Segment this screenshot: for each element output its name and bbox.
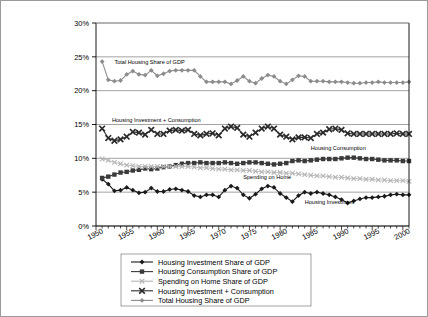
data-point [290,159,294,163]
data-point [364,157,368,161]
data-point [272,162,276,166]
chart-annotation: Housing Investment + Consumption [112,117,201,123]
chart-annotation: Housing Consumption [311,145,366,151]
data-point [229,161,233,165]
legend-label: Spending on Home Share of GDP [158,277,268,286]
data-point [204,161,208,165]
legend-label: Total Housing Share of GDP [158,296,250,305]
y-tick-label: 10% [74,154,89,163]
data-point [296,158,300,162]
data-point [260,161,264,165]
x-tick-label: 1960 [147,226,166,241]
data-point [198,160,202,164]
data-point [131,168,135,172]
chart-window: 0%5%10%15%20%25%30%195019551960196519701… [0,0,428,317]
data-point [401,159,405,163]
data-point [112,172,116,176]
data-point [241,161,245,165]
data-point [345,155,349,159]
data-point [223,160,227,164]
chart-annotation: Housing Investment [305,199,355,205]
data-point [140,269,144,273]
data-point [210,161,214,165]
data-point [266,162,270,166]
data-point [376,157,380,161]
data-point [309,158,313,162]
x-tick-label: 2000 [393,226,412,241]
x-tick-label: 1980 [270,226,289,241]
data-point [118,170,122,174]
data-point [284,161,288,165]
data-point [124,170,128,174]
x-tick-label: 1970 [209,226,228,241]
x-tick-label: 1975 [239,226,258,241]
data-point [382,158,386,162]
data-point [370,157,374,161]
data-point [235,162,239,166]
y-tick-label: 30% [74,19,89,28]
data-point [278,162,282,166]
data-point [333,157,337,161]
line-chart: 0%5%10%15%20%25%30%195019551960196519701… [1,1,428,317]
y-tick-label: 15% [74,120,89,129]
data-point [302,159,306,163]
x-tick-label: 1990 [331,226,350,241]
data-point [192,161,196,165]
data-point [217,161,221,165]
data-point [100,176,104,180]
legend-label: Housing Consumption Share of GDP [158,267,277,276]
chart-annotation: Spending on Home [243,174,291,180]
y-tick-label: 20% [74,86,89,95]
data-point [339,156,343,160]
data-point [315,157,319,161]
legend-label: Housing Investment + Consumption [158,287,274,296]
data-point [327,157,331,161]
x-tick-label: 1965 [178,226,197,241]
x-tick-label: 1955 [117,226,136,241]
data-point [388,158,392,162]
data-point [358,156,362,160]
data-point [106,174,110,178]
data-point [247,160,251,164]
legend-label: Housing Investment Share of GDP [158,258,270,267]
data-point [352,155,356,159]
y-tick-label: 0% [78,222,89,231]
x-tick-label: 1985 [301,226,320,241]
data-point [321,157,325,161]
data-point [395,158,399,162]
chart-annotation: Total Housing Share of GDP [114,59,185,65]
x-tick-label: 1995 [362,226,381,241]
y-tick-label: 5% [78,188,89,197]
data-point [253,160,257,164]
y-tick-label: 25% [74,53,89,62]
